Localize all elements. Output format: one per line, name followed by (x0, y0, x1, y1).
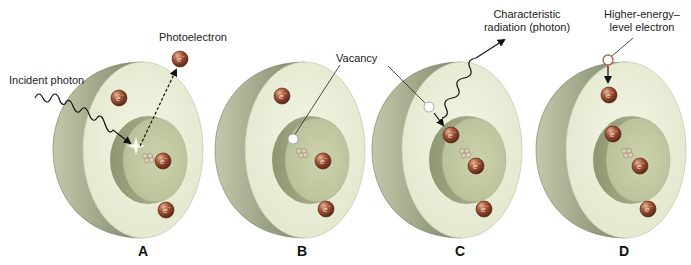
panel-letter-c: C (450, 243, 470, 259)
higher-energy-leader (612, 38, 633, 56)
atom-b (215, 62, 365, 238)
electron-b-outer-top (274, 88, 290, 104)
electron-c-inner (468, 158, 484, 174)
higher-energy-line2: level electron (600, 21, 684, 34)
electron-a-inner (155, 153, 171, 169)
electron-b-outer-bottom (318, 201, 334, 217)
characteristic-radiation-label: Characteristic radiation (photon) (477, 8, 577, 34)
characteristic-radiation-line2: radiation (photon) (477, 21, 577, 34)
atom-c (372, 62, 522, 238)
panel-b (215, 62, 365, 238)
vacancy-c (424, 102, 434, 112)
vacancy-b (288, 134, 298, 144)
higher-energy-vacancy (603, 55, 613, 65)
electron-b-inner (315, 153, 331, 169)
photoelectron (172, 51, 188, 67)
characteristic-radiation-line1: Characteristic (477, 8, 577, 21)
electron-a-outer-top (111, 90, 127, 106)
photoelectric-diagram: e − (0, 0, 691, 265)
vacancy-label: Vacancy (336, 52, 377, 65)
panel-letter-a: A (133, 243, 153, 259)
electron-c-moving (443, 127, 459, 143)
panel-letter-b: B (292, 243, 312, 259)
higher-energy-electron-label: Higher-energy– level electron (600, 8, 684, 34)
electron-d-inner (632, 158, 648, 174)
panel-letter-d: D (614, 243, 634, 259)
electron-d-outer-top (601, 87, 617, 103)
electron-a-outer-bottom (158, 202, 174, 218)
incident-photon-label: Incident photon (9, 74, 84, 87)
photoelectron-label: Photoelectron (159, 31, 227, 44)
electron-c-outer-bottom (476, 201, 492, 217)
diagram-canvas: e − (0, 0, 691, 265)
electron-d-outer-bottom (640, 201, 656, 217)
higher-energy-line1: Higher-energy– (600, 8, 684, 21)
panel-c (372, 40, 522, 238)
atom-a (53, 62, 203, 238)
electron-d-inner-top (605, 126, 621, 142)
panel-d (536, 38, 686, 238)
